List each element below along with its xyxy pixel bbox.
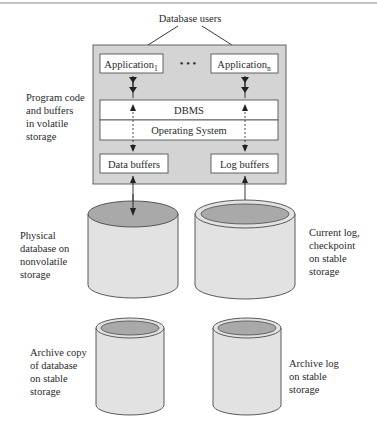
- physical-database-label: Physical database on nonvolatile storage: [20, 229, 69, 281]
- log-buffers-label: Log buffers: [220, 159, 269, 170]
- current-log-label: Current log, checkpoint on stable storag…: [309, 226, 360, 278]
- operating-system-label: Operating System: [151, 125, 227, 136]
- current-log-cylinder: [195, 200, 295, 299]
- volatile-storage-label: Program code and buffers in volatile sto…: [26, 91, 85, 143]
- archive-database-label: Archive copy of database on stable stora…: [30, 346, 87, 398]
- archive-log-label: Archive log on stable storage: [289, 357, 339, 396]
- database-users-label: Database users: [159, 13, 222, 24]
- dbms-label: DBMS: [174, 105, 204, 116]
- data-buffers-label: Data buffers: [108, 159, 160, 170]
- application-ellipsis: • • •: [180, 58, 197, 69]
- archive-database-cylinder: [96, 318, 164, 415]
- archive-log-cylinder: [213, 318, 281, 415]
